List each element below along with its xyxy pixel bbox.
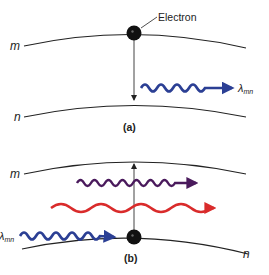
incident-wavelength-label: λmn — [0, 230, 14, 243]
panel-a: m n Electron λmn (a) — [10, 11, 253, 133]
electron-highlight — [131, 234, 133, 236]
level-m-curve — [24, 162, 246, 174]
level-m-label: m — [10, 167, 20, 181]
photon-red — [51, 204, 214, 212]
photon-wavelength-label: λmn — [237, 82, 253, 95]
electron-label: Electron — [158, 11, 197, 23]
incident-photon-wave — [20, 233, 114, 240]
electron — [127, 230, 142, 245]
level-m-label: m — [10, 39, 20, 53]
level-n-label: n — [14, 110, 21, 124]
electron — [127, 26, 142, 41]
level-n-label: n — [243, 247, 250, 261]
caption-a: (a) — [123, 121, 136, 133]
energy-level-diagram: m n Electron λmn (a) m n λmn (b) — [0, 0, 269, 275]
level-n-curve — [24, 106, 246, 118]
electron-leader-line — [141, 17, 157, 28]
electron-highlight — [131, 30, 133, 32]
caption-b: (b) — [124, 252, 137, 264]
stimulated-photon-purple — [77, 180, 196, 186]
emitted-photon-wave — [141, 85, 232, 92]
panel-b: m n λmn (b) — [0, 162, 250, 264]
